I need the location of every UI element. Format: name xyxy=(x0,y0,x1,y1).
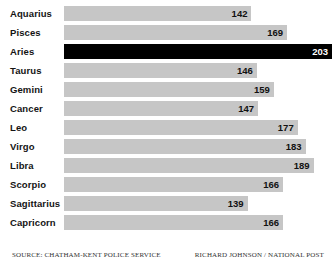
bar-track: 189 xyxy=(64,158,330,173)
bar-value-label: 189 xyxy=(294,161,310,171)
bar-category-label: Capricorn xyxy=(10,213,56,232)
bar-category-label: Aries xyxy=(10,42,34,61)
bar: 189 xyxy=(64,158,314,173)
bar-track: 142 xyxy=(64,6,330,21)
bar-category-label: Taurus xyxy=(10,61,42,80)
bar: 169 xyxy=(64,25,287,40)
bar: 177 xyxy=(64,120,298,135)
bar-value-label: 203 xyxy=(312,47,328,57)
bar-track: 147 xyxy=(64,101,330,116)
bar-track: 169 xyxy=(64,25,330,40)
bar-value-label: 166 xyxy=(263,218,279,228)
bar-rows: Aquarius142Pisces169Aries203Taurus146Gem… xyxy=(2,4,330,232)
bar-row: Cancer147 xyxy=(2,99,330,118)
zodiac-bar-chart: Aquarius142Pisces169Aries203Taurus146Gem… xyxy=(0,0,332,266)
bar-category-label: Libra xyxy=(10,156,34,175)
bar-value-label: 159 xyxy=(254,85,270,95)
bar-row: Gemini159 xyxy=(2,80,330,99)
bar-value-label: 146 xyxy=(237,66,253,76)
bar-category-label: Gemini xyxy=(10,80,43,99)
bar: 166 xyxy=(64,177,283,192)
bar-highlighted: 203 xyxy=(64,44,332,59)
bar-row: Aquarius142 xyxy=(2,4,330,23)
bar: 142 xyxy=(64,6,251,21)
bar: 183 xyxy=(64,139,306,154)
bar: 146 xyxy=(64,63,257,78)
bar-row: Virgo183 xyxy=(2,137,330,156)
bar-row: Scorpio166 xyxy=(2,175,330,194)
bar-category-label: Leo xyxy=(10,118,27,137)
bar: 159 xyxy=(64,82,274,97)
bar: 139 xyxy=(64,196,248,211)
bar-value-label: 139 xyxy=(228,199,244,209)
bar-track: 166 xyxy=(64,215,330,230)
bar-track: 159 xyxy=(64,82,330,97)
bar-row: Libra189 xyxy=(2,156,330,175)
bar-category-label: Virgo xyxy=(10,137,35,156)
bar-row: Pisces169 xyxy=(2,23,330,42)
bar-value-label: 147 xyxy=(238,104,254,114)
bar-track: 177 xyxy=(64,120,330,135)
bar-value-label: 177 xyxy=(278,123,294,133)
bar-category-label: Scorpio xyxy=(10,175,46,194)
bar-category-label: Cancer xyxy=(10,99,43,118)
bar-row: Leo177 xyxy=(2,118,330,137)
bar-track: 146 xyxy=(64,63,330,78)
bar-track: 183 xyxy=(64,139,330,154)
bar-category-label: Sagittarius xyxy=(10,194,60,213)
bar-row: Capricorn166 xyxy=(2,213,330,232)
bar-row: Aries203 xyxy=(2,42,330,61)
bar-row: Taurus146 xyxy=(2,61,330,80)
bar-category-label: Pisces xyxy=(10,23,41,42)
bar-track: 139 xyxy=(64,196,330,211)
bar-value-label: 183 xyxy=(286,142,302,152)
bar-value-label: 169 xyxy=(267,28,283,38)
bar-value-label: 142 xyxy=(232,9,248,19)
bar: 166 xyxy=(64,215,283,230)
credit-note: RICHARD JOHNSON / NATIONAL POST xyxy=(195,251,324,259)
bar-track: 203 xyxy=(64,44,330,59)
source-note: SOURCE: CHATHAM-KENT POLICE SERVICE xyxy=(12,251,161,259)
bar: 147 xyxy=(64,101,258,116)
bar-value-label: 166 xyxy=(263,180,279,190)
bar-track: 166 xyxy=(64,177,330,192)
bar-row: Sagittarius139 xyxy=(2,194,330,213)
chart-footer: SOURCE: CHATHAM-KENT POLICE SERVICE RICH… xyxy=(0,249,332,261)
bar-category-label: Aquarius xyxy=(10,4,52,23)
